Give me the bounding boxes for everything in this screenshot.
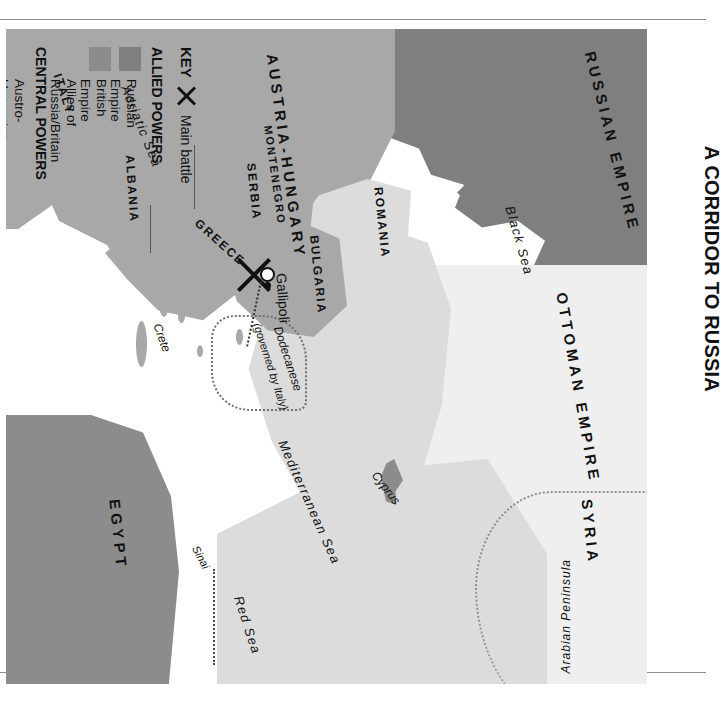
legend-label-british-empire: British Empire	[77, 79, 109, 122]
figure-title: A CORRIDOR TO RUSSIA	[700, 146, 723, 392]
main-battle-icon	[177, 85, 195, 107]
legend-swatch-austro-hungarian	[6, 47, 25, 71]
legend-label-russian-empire: Russian Empire	[107, 79, 139, 128]
legend-main-battle-label: Main battle	[178, 115, 194, 183]
legend-key-heading: KEY	[178, 47, 195, 78]
landmass-egypt	[6, 415, 179, 684]
legend-central-powers-heading: CENTRAL POWERS	[33, 47, 49, 180]
page-rule-top	[0, 19, 706, 20]
legend-label-allies: Allies of Russia/Britain	[47, 79, 79, 162]
map-legend: KEY Main battle ALLIED POWERS Russian Em…	[17, 47, 195, 353]
legend-allied-powers-heading: ALLIED POWERS	[149, 47, 165, 164]
map-plate: RUSSIAN EMPIRE Black Sea OTTOMAN EMPIRE …	[6, 29, 647, 684]
map-label-sinai: Sinai	[190, 544, 212, 571]
map-label-arabian-peninsula: Arabian Peninsula	[559, 559, 573, 673]
battle-marker-dot	[264, 282, 271, 289]
map-figure: RUSSIAN EMPIRE Black Sea OTTOMAN EMPIRE …	[6, 29, 647, 684]
legend-swatch-allies	[59, 47, 81, 71]
legend-label-line1: Austro-Hungarian	[6, 79, 27, 141]
legend-label-austro-hungarian: Austro-Hungarian Empire and Bulgaria	[6, 79, 27, 141]
sinai-border-line	[187, 569, 215, 665]
map-label-gallipoli: Gallipoli	[273, 273, 292, 324]
legend-swatch-russian-empire	[119, 47, 141, 71]
island-speck	[197, 345, 203, 357]
island-speck	[220, 273, 227, 285]
island-speck	[201, 291, 209, 309]
legend-swatch-british-empire	[89, 47, 111, 71]
